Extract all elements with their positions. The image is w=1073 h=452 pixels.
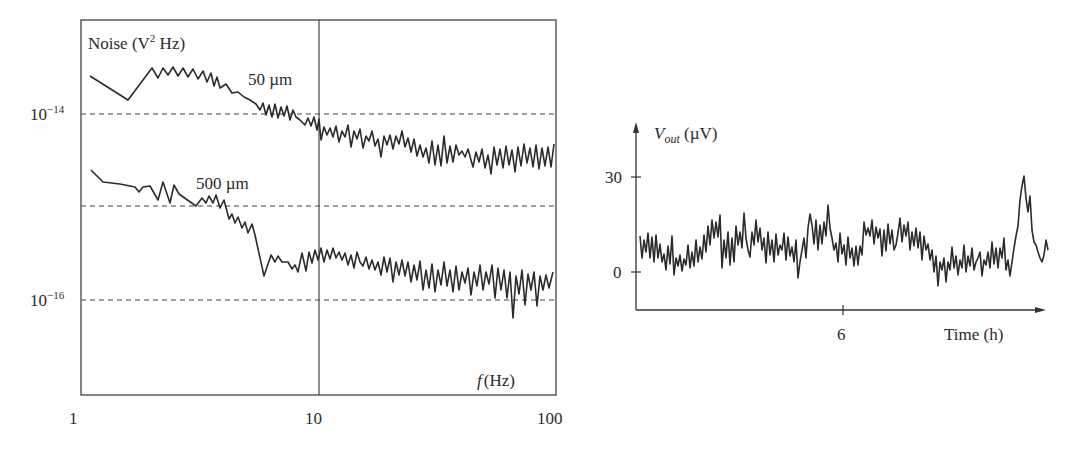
y-axis-title: Noise (V2 Hz) xyxy=(88,32,185,53)
series-label-500um: 500 µm xyxy=(196,174,249,193)
y-tick-0: 0 xyxy=(613,263,622,282)
x-tick-6: 6 xyxy=(837,325,846,344)
figure-canvas: Noise (V2 Hz) 50 µm 500 µm f(Hz) 1 10 10… xyxy=(0,0,1073,452)
x-tick-100: 100 xyxy=(537,409,563,428)
series-label-50um: 50 µm xyxy=(248,70,292,89)
y-tick-1e-14: 10−14 xyxy=(30,103,65,124)
x-tick-1: 1 xyxy=(69,409,78,428)
vout-signal-line xyxy=(640,176,1048,286)
noise-spectrum-chart: Noise (V2 Hz) 50 µm 500 µm f(Hz) 1 10 10… xyxy=(30,20,563,428)
y-tick-1e-16: 10−16 xyxy=(30,289,65,310)
x-axis-title: f(Hz) xyxy=(477,371,515,390)
y-axis-arrow-icon xyxy=(633,122,639,133)
series-50um-line xyxy=(90,67,554,174)
series-500um-line xyxy=(91,170,553,318)
y-axis-title: Vout (µV) xyxy=(654,124,717,146)
x-tick-10: 10 xyxy=(305,409,322,428)
y-tick-30: 30 xyxy=(605,168,622,187)
x-axis-arrow-icon xyxy=(1035,307,1046,313)
vout-time-chart: Vout (µV) 30 0 6 Time (h) xyxy=(605,122,1048,344)
x-axis-title: Time (h) xyxy=(944,325,1003,344)
